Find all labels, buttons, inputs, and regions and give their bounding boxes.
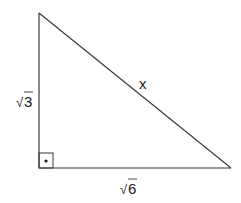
- label-hypotenuse-x: x: [139, 75, 147, 92]
- hypotenuse: [39, 13, 231, 168]
- label-vertical-leg: √ 3: [16, 92, 33, 110]
- triangle: [39, 13, 231, 168]
- right-triangle-diagram: √ 3 √ 6 x: [0, 0, 241, 203]
- right-angle-dot: [44, 159, 47, 162]
- radical-sign-3: √: [16, 95, 24, 110]
- right-angle-marker: [39, 153, 53, 168]
- radical-sign-6: √: [120, 182, 128, 197]
- label-horizontal-leg: √ 6: [120, 179, 137, 197]
- value-6: 6: [128, 180, 136, 197]
- value-3: 3: [24, 93, 32, 110]
